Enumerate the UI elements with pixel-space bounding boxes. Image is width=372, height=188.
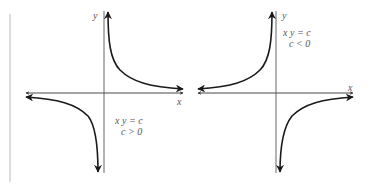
right-condition: c < 0 bbox=[289, 38, 310, 49]
left-y-axis-label: y bbox=[93, 10, 97, 21]
left-panel bbox=[26, 11, 183, 173]
left-hyperbola-q1-branch bbox=[108, 12, 183, 89]
right-hyperbola-q2-branch bbox=[198, 12, 272, 89]
left-equation: x y = c bbox=[115, 115, 143, 126]
left-condition: c > 0 bbox=[121, 126, 142, 137]
right-equation: x y = c bbox=[283, 27, 311, 38]
hyperbola-figure: y x x y = c c > 0 y x x y = c c < 0 bbox=[0, 0, 372, 188]
right-y-axis-label: y bbox=[282, 10, 286, 21]
left-x-axis-label: x bbox=[177, 96, 181, 107]
figure-svg bbox=[0, 0, 372, 188]
left-hyperbola-q3-branch bbox=[26, 97, 98, 172]
right-panel bbox=[198, 11, 353, 173]
right-hyperbola-q4-branch bbox=[280, 97, 353, 172]
right-x-axis-label: x bbox=[348, 82, 352, 93]
